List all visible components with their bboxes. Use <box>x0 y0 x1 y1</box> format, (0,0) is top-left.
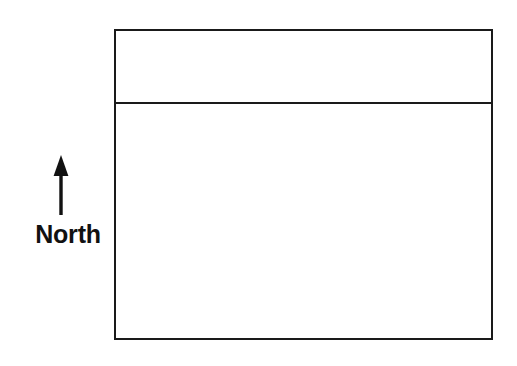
north-arrow-icon <box>50 153 72 215</box>
plan-rectangle <box>114 29 493 340</box>
upper-section <box>116 31 491 104</box>
diagram-canvas: North <box>0 0 517 366</box>
north-label: North <box>18 222 118 247</box>
compass-group: North <box>18 150 118 260</box>
lower-section <box>116 104 491 338</box>
